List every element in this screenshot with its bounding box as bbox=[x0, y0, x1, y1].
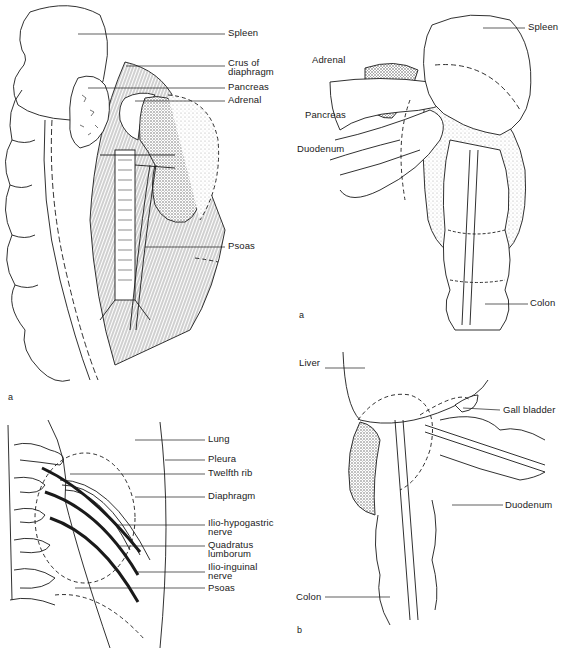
label-quadratus-line2: lumborum bbox=[208, 549, 251, 559]
label-colon: Colon bbox=[530, 298, 555, 308]
panel-top-left bbox=[5, 6, 225, 382]
panel-bottom-right bbox=[325, 352, 545, 625]
label-ilio-hypogastric-line2: nerve bbox=[208, 527, 232, 537]
anatomy-illustration bbox=[0, 0, 561, 648]
vertebral-column bbox=[8, 425, 63, 605]
twelfth-rib-thick bbox=[42, 468, 140, 552]
label-adrenal: Adrenal bbox=[228, 95, 261, 105]
duodenum-shape bbox=[440, 417, 545, 480]
panel-top-right bbox=[330, 15, 531, 330]
label-spleen: Spleen bbox=[228, 28, 258, 38]
panel-letter-a-top-left: a bbox=[8, 392, 13, 402]
label-crus-line2: diaphragm bbox=[228, 67, 274, 77]
label-lung: Lung bbox=[208, 434, 230, 444]
panel-bottom-left bbox=[8, 420, 205, 648]
label-duodenum: Duodenum bbox=[297, 144, 344, 154]
label-gall-bladder: Gall bladder bbox=[503, 405, 555, 415]
label-twelfth-rib: Twelfth rib bbox=[208, 468, 252, 478]
panel-letter-b: b bbox=[297, 625, 302, 635]
kidney-stipple bbox=[349, 422, 380, 515]
label-psoas: Psoas bbox=[228, 241, 255, 251]
label-liver: Liver bbox=[299, 358, 320, 368]
aorta bbox=[115, 150, 135, 300]
label-diaphragm: Diaphragm bbox=[208, 491, 255, 501]
label-adrenal: Adrenal bbox=[312, 55, 345, 65]
label-ilio-inguinal-line2: nerve bbox=[208, 571, 232, 581]
label-psoas: Psoas bbox=[208, 583, 235, 593]
label-duodenum: Duodenum bbox=[505, 500, 552, 510]
label-pancreas: Pancreas bbox=[305, 110, 346, 120]
colon-column bbox=[443, 140, 510, 330]
label-spleen: Spleen bbox=[528, 22, 558, 32]
ilio-inguinal-nerve bbox=[50, 518, 138, 602]
label-pleura: Pleura bbox=[208, 454, 236, 464]
label-colon: Colon bbox=[296, 592, 321, 602]
label-pancreas: Pancreas bbox=[228, 82, 269, 92]
panel-letter-a-top-right: a bbox=[299, 310, 304, 320]
pleura-line bbox=[160, 422, 166, 648]
colon-column bbox=[375, 500, 436, 625]
